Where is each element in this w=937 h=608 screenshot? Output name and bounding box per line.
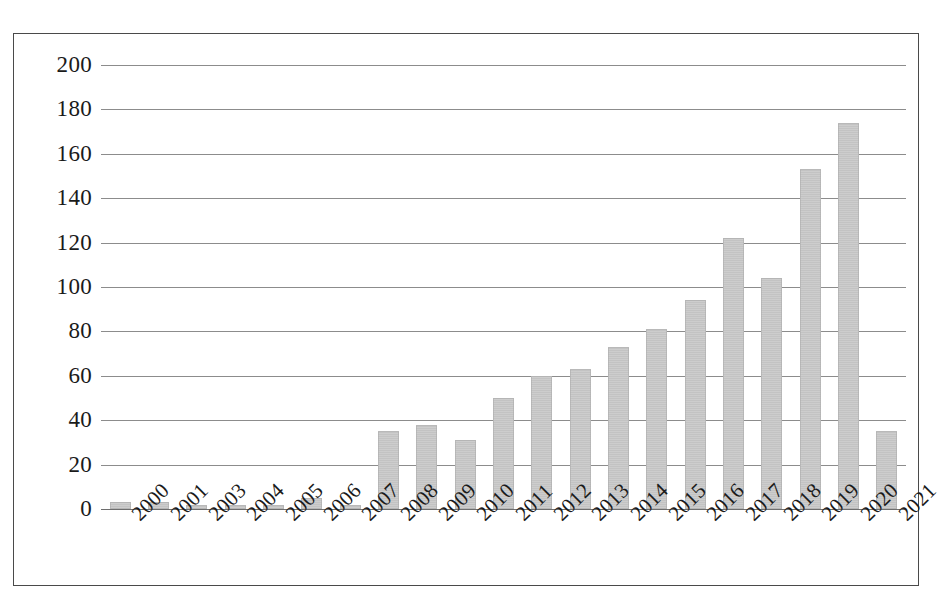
y-tick-label: 120: [32, 231, 92, 254]
y-tick-label: 140: [32, 186, 92, 209]
y-tick-label: 200: [32, 53, 92, 76]
y-tick-label: 80: [32, 319, 92, 342]
bar-series: [101, 65, 906, 509]
y-tick-label: 40: [32, 408, 92, 431]
y-tick-label: 180: [32, 97, 92, 120]
bar-2018: [761, 278, 782, 509]
y-axis-labels: 200180160140120100806040200: [28, 65, 92, 509]
y-tick-label: 60: [32, 364, 92, 387]
bar-2016: [685, 300, 706, 509]
y-tick-label: 20: [32, 453, 92, 476]
y-tick-label: 160: [32, 142, 92, 165]
chart-figure-frame: 200180160140120100806040200 200020012003…: [13, 33, 919, 586]
y-tick-label: 100: [32, 275, 92, 298]
x-axis-labels: 2000200120032004200520062007200820092010…: [101, 510, 906, 590]
bar-2019: [800, 169, 821, 509]
bar-2020: [838, 123, 859, 509]
bar-2017: [723, 238, 744, 509]
y-tick-label: 0: [32, 497, 92, 520]
